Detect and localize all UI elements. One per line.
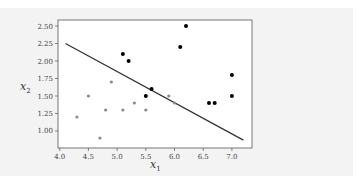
x-tick-label: 4.5 bbox=[83, 153, 94, 161]
x-axis-label: x1 bbox=[150, 158, 161, 173]
y-tick-label: 1.75 bbox=[37, 75, 53, 83]
data-point-class-dark bbox=[127, 59, 131, 63]
data-point-class-dark bbox=[230, 73, 234, 77]
x-axis: 4.04.55.05.56.06.57.0 bbox=[54, 148, 237, 161]
x-tick-label: 4.0 bbox=[54, 153, 65, 161]
data-point-class-light bbox=[98, 136, 101, 139]
data-point-class-dark bbox=[213, 101, 217, 105]
y-tick-label: 2.25 bbox=[37, 40, 53, 48]
data-point-class-light bbox=[104, 108, 107, 111]
scatter-chart: 4.04.55.05.56.06.57.0 1.001.251.501.752.… bbox=[0, 0, 362, 186]
data-point-class-light bbox=[121, 108, 124, 111]
y-tick-label: 1.25 bbox=[37, 110, 53, 118]
x-tick-label: 6.0 bbox=[169, 153, 180, 161]
data-point-class-light bbox=[87, 94, 90, 97]
y-axis: 1.001.251.501.752.002.252.50 bbox=[37, 23, 58, 136]
y-tick-label: 2.00 bbox=[37, 58, 53, 66]
data-point-class-light bbox=[133, 101, 136, 104]
y-tick-label: 2.50 bbox=[37, 23, 53, 31]
data-point-class-dark bbox=[184, 24, 188, 28]
data-point-class-light bbox=[75, 115, 78, 118]
x-tick-label: 7.0 bbox=[226, 153, 237, 161]
x-tick-label: 6.5 bbox=[198, 153, 209, 161]
data-point-class-light bbox=[144, 108, 147, 111]
y-axis-label: x2 bbox=[20, 80, 31, 95]
data-point-class-dark bbox=[150, 87, 154, 91]
data-point-class-dark bbox=[121, 52, 125, 56]
data-point-class-dark bbox=[144, 94, 148, 98]
data-point-class-light bbox=[173, 101, 176, 104]
x-tick-label: 5.0 bbox=[112, 153, 123, 161]
y-tick-label: 1.00 bbox=[37, 127, 53, 135]
data-point-class-dark bbox=[207, 101, 211, 105]
data-point-class-light bbox=[167, 94, 170, 97]
data-point-class-dark bbox=[178, 45, 182, 49]
y-tick-label: 1.50 bbox=[37, 93, 53, 101]
data-point-class-light bbox=[110, 80, 113, 83]
data-point-class-dark bbox=[230, 94, 234, 98]
